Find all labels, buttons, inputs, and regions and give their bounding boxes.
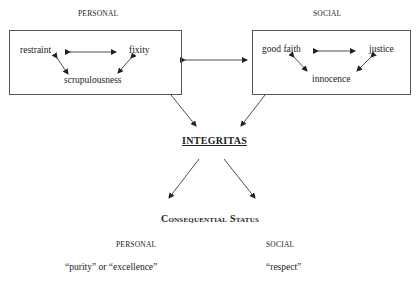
node-fixity: fixity — [129, 45, 150, 55]
node-justice: justice — [369, 44, 394, 54]
consequential-personal-heading: PERSONAL — [116, 240, 156, 249]
consequential-status-title: Consequential Status — [161, 213, 259, 224]
node-restraint: restraint — [20, 45, 51, 55]
node-innocence: innocence — [312, 74, 351, 84]
consequential-personal-value: “purity” or “excellence” — [65, 262, 157, 272]
consequential-social-heading: SOCIAL — [266, 240, 294, 249]
node-scrupulousness: scrupulousness — [64, 75, 122, 85]
personal-box — [9, 30, 182, 95]
consequential-social-value: “respect” — [266, 262, 301, 272]
social-heading: SOCIAL — [313, 9, 341, 18]
personal-heading: PERSONAL — [78, 9, 118, 18]
social-box — [252, 30, 411, 95]
node-good-faith: good faith — [262, 44, 301, 54]
integritas-title: INTEGRITAS — [182, 135, 247, 146]
